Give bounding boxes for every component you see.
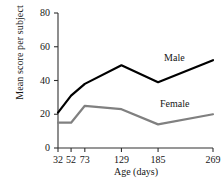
series-line-female <box>58 106 213 125</box>
chart-figure: Mean score per subject Age (days) 80 60 … <box>0 0 222 186</box>
series-line-male <box>58 60 213 112</box>
series-lines <box>58 60 213 124</box>
y-tick-marks <box>54 13 58 148</box>
axes <box>58 13 213 148</box>
plot-area <box>0 0 222 186</box>
x-tick-marks <box>58 148 213 152</box>
